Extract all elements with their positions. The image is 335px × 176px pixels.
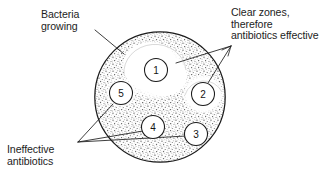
disc-label-4: 4: [150, 122, 156, 133]
ineffective-antibiotics-label: Ineffective antibiotics: [7, 144, 54, 167]
disc-label-2: 2: [200, 89, 206, 100]
disc-label-3: 3: [193, 129, 199, 140]
antibiotic-disc-4: 4: [142, 116, 165, 139]
leader-bacteria: [95, 30, 124, 54]
clear-zones-label: Clear zones, therefore antibiotics effec…: [231, 7, 319, 42]
disc-label-1: 1: [153, 65, 159, 76]
antibiotic-disc-5: 5: [110, 82, 133, 105]
antibiotic-disc-3: 3: [185, 123, 208, 146]
antibiotic-disc-2: 2: [192, 83, 215, 106]
antibiotic-disc-1: 1: [145, 59, 168, 82]
disc-label-5: 5: [118, 88, 124, 99]
bacteria-growing-label: Bacteria growing: [41, 9, 79, 32]
diagram-canvas: 1 2 3 4 5 Bacteria growing Clear zones, …: [0, 0, 335, 176]
